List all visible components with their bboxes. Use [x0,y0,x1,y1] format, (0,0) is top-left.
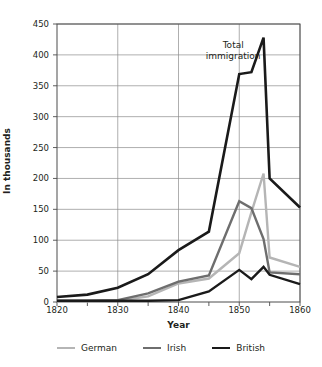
legend-swatch-icon [143,347,161,349]
legend-label: British [236,343,265,353]
annotation-line-2: immigration [197,51,269,62]
y-axis-tick-label: 250 [19,144,49,152]
y-axis-tick-label: 100 [19,236,49,244]
immigration-line-chart: In thousands 450400350300250200150100500… [0,0,322,367]
y-axis-tick-label: 300 [19,113,49,121]
x-axis-tick-label: 1850 [219,305,259,315]
legend-item-german: German [57,343,117,353]
y-axis-tick-label: 400 [19,51,49,59]
y-axis-tick-label: 350 [19,82,49,90]
y-axis-tick-label: 450 [19,20,49,28]
total-immigration-annotation: Total immigration [197,40,269,62]
x-axis-tick-label: 1820 [37,305,77,315]
y-axis-tick-label: 200 [19,174,49,182]
y-axis-tick-label: 50 [19,267,49,275]
chart-legend: GermanIrishBritish [0,338,322,358]
x-axis-tick-label: 1830 [98,305,138,315]
legend-label: German [81,343,117,353]
legend-item-british: British [212,343,265,353]
legend-item-irish: Irish [143,343,186,353]
x-axis-tick-label: 1840 [159,305,199,315]
x-axis-title: Year [57,320,300,330]
legend-label: Irish [167,343,186,353]
y-axis-tick-label: 150 [19,205,49,213]
legend-swatch-icon [212,347,230,349]
legend-swatch-icon [57,347,75,349]
x-axis-tick-label: 1860 [280,305,320,315]
annotation-line-1: Total [197,40,269,51]
